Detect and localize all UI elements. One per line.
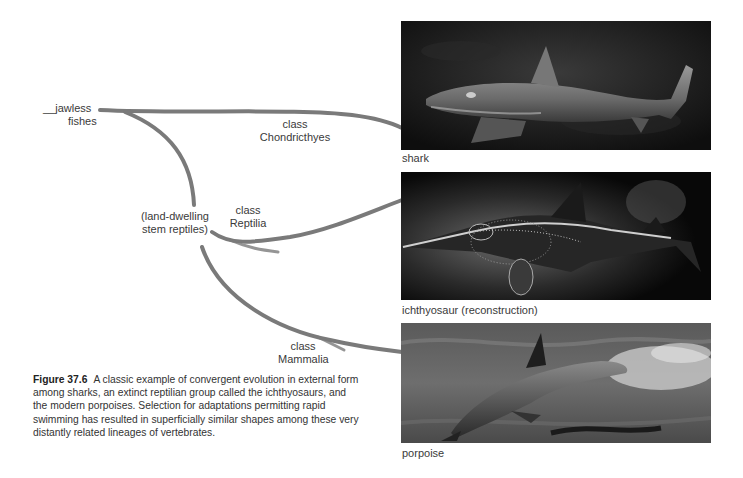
reptilia-line1: class	[226, 204, 270, 217]
ichthyosaur-photo	[401, 172, 711, 300]
mammalia-line2: Mammalia	[278, 353, 328, 366]
reptilia-line2: Reptilia	[226, 217, 270, 230]
porpoise-photo	[401, 323, 711, 443]
label-reptilia: class Reptilia	[226, 204, 270, 230]
ichthyosaur-label: ichthyosaur (reconstruction)	[402, 304, 538, 316]
branch-chondricthyes	[100, 110, 402, 128]
label-chondricthyes: class Chondricthyes	[252, 118, 338, 144]
root-line1: jawless	[55, 102, 91, 114]
porpoise-label: porpoise	[402, 447, 444, 459]
mammalia-line1: class	[278, 340, 328, 353]
shark-label: shark	[402, 152, 429, 164]
label-mammalia: class Mammalia	[278, 340, 328, 366]
stem-reptiles-line2: stem reptiles)	[140, 223, 210, 236]
chondricthyes-line1: class	[252, 118, 338, 131]
figure-caption: Figure 37.6A classic example of converge…	[33, 373, 363, 439]
chondricthyes-line2: Chondricthyes	[252, 131, 338, 144]
figure-number: Figure 37.6	[33, 374, 87, 385]
stem-reptiles-line1: (land-dwelling	[140, 210, 210, 223]
shark-photo	[401, 21, 711, 150]
root-dash: __	[43, 102, 55, 114]
label-jawless-fishes: __jawless fishes	[43, 102, 97, 128]
label-stem-reptiles: (land-dwelling stem reptiles)	[140, 210, 210, 236]
branch-mammalia	[202, 247, 402, 352]
branch-stem-reptiles	[125, 112, 194, 205]
root-line2: fishes	[43, 115, 97, 128]
